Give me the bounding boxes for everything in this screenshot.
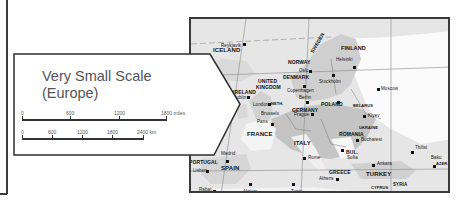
miles-tick-1200 bbox=[119, 116, 120, 120]
km-scale-line bbox=[22, 138, 144, 140]
callout-shape bbox=[0, 0, 467, 208]
km-tick-1800 bbox=[112, 135, 113, 139]
km-tick-1200 bbox=[82, 135, 83, 139]
km-tick-600 bbox=[52, 135, 53, 139]
miles-tick-600 bbox=[70, 116, 71, 120]
miles-tick-1800 bbox=[166, 116, 167, 120]
callout-title-line1: Very Small Scale bbox=[42, 68, 152, 85]
callout-title-line2: (Europe) bbox=[42, 85, 152, 102]
km-tick-label-2400: 2400 km bbox=[137, 129, 156, 135]
callout-title: Very Small Scale (Europe) bbox=[42, 68, 152, 102]
km-tick-0 bbox=[22, 135, 23, 139]
miles-tick-0 bbox=[22, 116, 23, 120]
miles-scale-line bbox=[22, 119, 167, 121]
km-tick-2400 bbox=[143, 135, 144, 139]
miles-tick-label-1800: 1800 miles bbox=[161, 110, 185, 116]
